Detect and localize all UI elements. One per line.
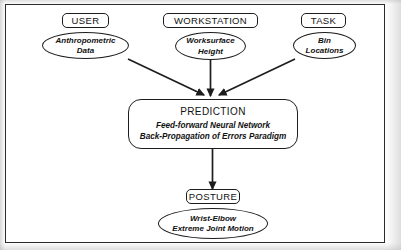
category-box-workstation[interactable]: WORKSTATION [163,13,258,28]
category-box-posture[interactable]: POSTURE [186,189,240,204]
process-line-feed-forward: Feed-forward Neural Network [156,120,270,131]
process-box-prediction[interactable]: PREDICTION Feed-forward Neural Network B… [128,99,298,149]
detail-line-bin: Bin [318,36,331,45]
detail-line-anthropometric: Anthropometric [56,36,116,45]
category-box-user[interactable]: USER [62,13,109,28]
figure-root: USER Anthropometric Data WORKSTATION Wor… [0,0,401,250]
detail-line-height: Height [198,47,223,56]
detail-line-worksurface: Worksurface [186,36,234,45]
detail-line-locations: Locations [306,46,344,55]
category-label-workstation: WORKSTATION [174,15,247,26]
detail-node-wrist-elbow-motion[interactable]: Wrist-Elbow Extreme Joint Motion [158,208,268,239]
category-label-posture: POSTURE [189,191,237,202]
category-label-user: USER [72,15,100,26]
detail-line-data: Data [77,46,94,55]
process-line-back-propagation: Back-Propagation of Errors Paradigm [140,131,287,142]
detail-line-extreme-joint-motion: Extreme Joint Motion [172,224,253,233]
detail-node-anthropometric-data[interactable]: Anthropometric Data [42,32,129,59]
detail-node-bin-locations[interactable]: Bin Locations [293,32,356,59]
process-title-prediction: PREDICTION [180,106,246,118]
category-label-task: TASK [311,15,337,26]
detail-line-wrist-elbow: Wrist-Elbow [190,214,236,223]
category-box-task[interactable]: TASK [301,13,346,28]
detail-node-worksurface-height[interactable]: Worksurface Height [175,32,246,60]
